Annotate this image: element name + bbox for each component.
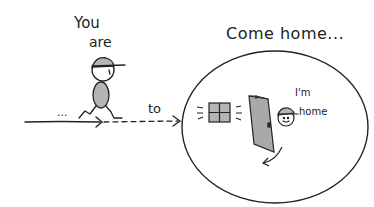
door-icon: [249, 96, 282, 166]
label-come-home: Come home...: [226, 24, 344, 43]
label-dots: ...: [57, 106, 68, 119]
window-icon: [197, 103, 242, 122]
person-icon: [79, 58, 125, 118]
peeking-person-icon: [278, 108, 298, 126]
label-you: You: [74, 14, 100, 32]
illustration: You are ... to Come home... I'm home: [0, 0, 374, 207]
label-im: I'm: [295, 87, 310, 98]
label-are: are: [89, 34, 112, 50]
home-circle: [182, 51, 368, 203]
label-home: home: [299, 106, 327, 117]
label-to: to: [148, 101, 161, 116]
